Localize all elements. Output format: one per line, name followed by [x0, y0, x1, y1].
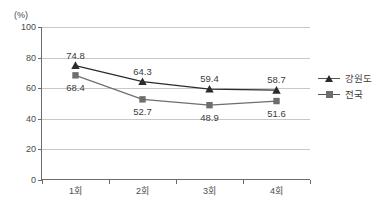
- data-point-label: 64.3: [133, 65, 152, 76]
- y-axis-unit-label: (%): [14, 10, 28, 20]
- y-axis-tick-label: 40: [10, 114, 36, 124]
- y-axis-tick-mark: [38, 88, 42, 89]
- legend-item-jeonguk[interactable]: 전국: [318, 86, 388, 102]
- legend-label-jeonguk: 전국: [340, 87, 363, 101]
- square-marker-icon: [72, 72, 78, 78]
- y-axis-tick-labels: 020406080100: [8, 27, 36, 180]
- data-point-label: 48.9: [200, 112, 219, 123]
- data-point-label: 59.4: [200, 73, 219, 84]
- data-point-label: 51.6: [267, 108, 286, 119]
- x-axis-tick-mark: [42, 180, 43, 184]
- line-chart: (%) 020406080100 1회2회3회4회 74.864.359.458…: [0, 0, 390, 211]
- y-axis-tick-label: 80: [10, 53, 36, 63]
- triangle-marker-icon: [318, 72, 340, 84]
- y-axis-tick-mark: [38, 149, 42, 150]
- x-axis-category-label: 1회: [69, 184, 82, 197]
- data-point-label: 52.7: [133, 106, 152, 117]
- x-axis-tick-mark: [176, 180, 177, 184]
- y-axis-tick-mark: [38, 27, 42, 28]
- y-axis-tick-mark: [38, 58, 42, 59]
- y-axis-tick-mark: [38, 180, 42, 181]
- triangle-marker-icon: [71, 61, 79, 69]
- y-axis-tick-label: 20: [10, 144, 36, 154]
- legend-label-gangwondo: 강원도: [340, 71, 372, 85]
- square-marker-icon: [206, 102, 212, 108]
- square-marker-icon: [273, 98, 279, 104]
- y-axis-tick-label: 60: [10, 83, 36, 93]
- y-axis-tick-label: 100: [10, 22, 36, 32]
- data-point-label: 74.8: [66, 49, 85, 60]
- chart-legend: 강원도 전국: [318, 70, 388, 102]
- legend-item-gangwondo[interactable]: 강원도: [318, 70, 388, 86]
- x-axis-tick-mark: [109, 180, 110, 184]
- square-marker-icon: [139, 96, 145, 102]
- data-point-label: 68.4: [66, 82, 85, 93]
- data-point-label: 58.7: [267, 74, 286, 85]
- x-axis-category-label: 4회: [270, 184, 283, 197]
- x-axis-category-label: 2회: [136, 184, 149, 197]
- square-marker-icon: [318, 88, 340, 100]
- y-axis-tick-mark: [38, 119, 42, 120]
- y-axis-tick-label: 0: [10, 175, 36, 185]
- x-axis-category-label: 3회: [203, 184, 216, 197]
- x-axis-tick-mark: [310, 180, 311, 184]
- x-axis-tick-mark: [243, 180, 244, 184]
